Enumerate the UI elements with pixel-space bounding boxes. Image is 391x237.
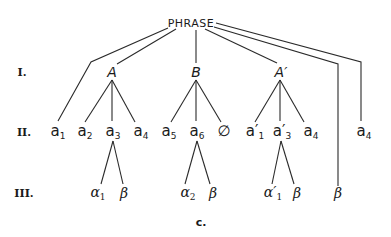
node-B: B bbox=[191, 65, 201, 79]
level-label-1: I. bbox=[18, 67, 27, 78]
node-a5: a5 bbox=[162, 124, 177, 141]
node-a4: a4 bbox=[134, 124, 149, 141]
edge-phrase-Aprime bbox=[205, 29, 277, 63]
edge-A-a2 bbox=[85, 80, 112, 122]
node-a1-prime: a′1 bbox=[246, 124, 264, 141]
edge-a6-beta bbox=[197, 141, 210, 184]
node-A-prime: A′ bbox=[275, 65, 288, 79]
edge-B-empty bbox=[196, 80, 221, 122]
edge-Aprime-a1prime bbox=[255, 80, 280, 122]
node-beta-a3-prime: β bbox=[293, 186, 301, 200]
node-alpha1-prime: α′1 bbox=[264, 185, 282, 202]
level-label-3: III. bbox=[14, 188, 33, 199]
edge-A-a4 bbox=[112, 80, 135, 122]
node-a3-prime: a′3 bbox=[273, 124, 291, 141]
node-beta-a6: β bbox=[209, 186, 217, 200]
node-a4-second: a4 bbox=[304, 124, 319, 141]
edge-a3prime-alpha1prime bbox=[272, 141, 281, 184]
node-alpha1: α1 bbox=[90, 185, 105, 202]
level-label-2: II. bbox=[17, 127, 31, 138]
node-a6: a6 bbox=[190, 124, 205, 141]
node-a1: a1 bbox=[51, 124, 66, 141]
node-alpha2: α2 bbox=[180, 185, 195, 202]
edge-a6-alpha2 bbox=[185, 141, 197, 184]
node-A: A bbox=[107, 65, 117, 79]
edge-a3-beta bbox=[113, 141, 123, 184]
root-node-phrase: PHRASE bbox=[168, 18, 215, 29]
node-empty-set: ∅ bbox=[217, 124, 230, 139]
edge-B-a5 bbox=[171, 80, 196, 122]
edge-a3-alpha1 bbox=[101, 141, 113, 184]
node-beta-phrase: β bbox=[334, 186, 342, 200]
node-a3: a3 bbox=[106, 124, 121, 141]
node-beta-a3: β bbox=[120, 186, 128, 200]
node-a4-right: a4 bbox=[357, 124, 372, 141]
edge-Aprime-a4 bbox=[280, 80, 304, 122]
figure-caption: c. bbox=[196, 217, 207, 228]
edge-a3prime-beta bbox=[281, 141, 294, 184]
node-a2: a2 bbox=[78, 124, 93, 141]
edge-phrase-a4-right bbox=[216, 23, 361, 121]
